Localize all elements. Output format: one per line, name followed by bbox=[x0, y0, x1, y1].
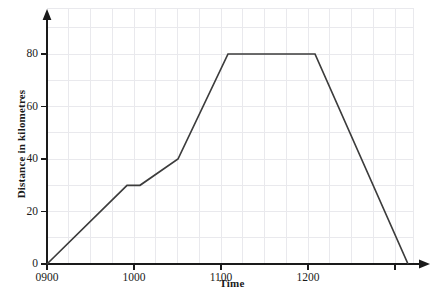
x-tick-label-1200: 1200 bbox=[284, 271, 332, 283]
x-tick-label-0900: 0900 bbox=[23, 271, 71, 283]
y-tick-label-80: 80 bbox=[12, 47, 38, 59]
y-axis-arrowhead bbox=[43, 9, 52, 20]
y-axis-title: Distance in kilometres bbox=[15, 74, 27, 214]
x-axis-title: Time bbox=[182, 277, 282, 289]
distance-time-chart: 0 20 40 60 80 0900 1000 1100 1200 Distan… bbox=[0, 0, 438, 295]
x-tick-label-1000: 1000 bbox=[110, 271, 158, 283]
x-axis-arrowhead bbox=[419, 260, 430, 269]
grid-lines bbox=[47, 8, 413, 264]
axis-lines bbox=[43, 9, 430, 268]
y-tick-label-0: 0 bbox=[12, 257, 38, 269]
chart-canvas bbox=[0, 0, 438, 295]
